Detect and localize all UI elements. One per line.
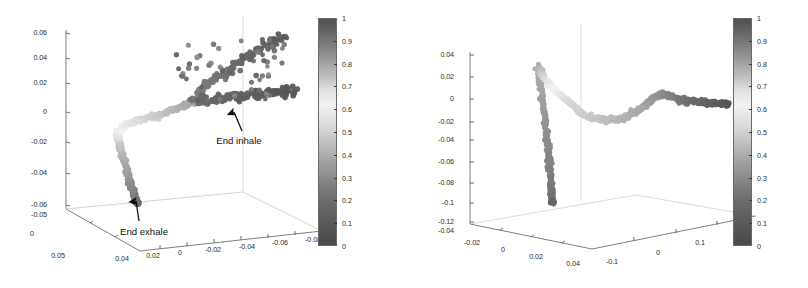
scatter-point bbox=[216, 92, 221, 97]
scatter-point bbox=[232, 93, 237, 98]
left-scatter-points bbox=[113, 31, 300, 207]
scatter-point bbox=[282, 95, 288, 101]
colorbar-tick bbox=[334, 86, 337, 87]
scatter-point bbox=[550, 200, 555, 205]
scatter-point bbox=[176, 66, 181, 71]
colorbar-tick-label: 0.8 bbox=[342, 59, 352, 68]
figure-root: 0.06 0.04 0.02 0 -0.02 -0.04 -0.06 -0.05… bbox=[0, 0, 808, 288]
left-depthtick-2: 0.05 bbox=[51, 252, 65, 260]
colorbar-tick bbox=[749, 86, 752, 87]
right-depthtick-2: 0 bbox=[501, 246, 505, 254]
left-ytick-2: 0.02 bbox=[33, 79, 47, 87]
colorbar-tick bbox=[334, 132, 337, 133]
end-inhale-arrow bbox=[234, 112, 242, 131]
left-depth-ticks bbox=[90, 221, 118, 237]
scatter-point bbox=[291, 91, 296, 96]
left-ytick-1: 0.04 bbox=[33, 54, 47, 62]
right-y-ticks bbox=[470, 55, 474, 222]
left-axis-lines bbox=[66, 16, 322, 251]
left-depthtick-1: 0 bbox=[30, 230, 34, 238]
colorbar-tick-label: 0.9 bbox=[342, 36, 352, 45]
end-inhale-label: End inhale bbox=[216, 135, 261, 146]
right-xtick-1: 0 bbox=[656, 249, 660, 257]
colorbar-tick-label: 1 bbox=[342, 14, 346, 23]
scatter-point bbox=[266, 72, 271, 77]
scatter-point bbox=[233, 61, 238, 66]
left-depthtick-0: -0.05 bbox=[31, 211, 47, 219]
left-ytick-0: 0.06 bbox=[33, 29, 47, 37]
scatter-point bbox=[259, 92, 264, 97]
scatter-point bbox=[194, 55, 200, 61]
right-depthtick-0: -0.04 bbox=[438, 227, 454, 235]
colorbar-tick bbox=[749, 41, 752, 42]
scatter-point bbox=[208, 61, 214, 67]
colorbar-tick bbox=[749, 64, 752, 65]
left-xtick-0: 0.04 bbox=[115, 255, 129, 263]
left-ytick-4: -0.02 bbox=[31, 138, 47, 146]
scatter-point bbox=[249, 80, 254, 85]
colorbar-tick-label: 0.2 bbox=[342, 196, 352, 205]
scatter-point bbox=[254, 49, 260, 55]
colorbar-tick bbox=[749, 109, 752, 110]
left-xtick-5: -0.06 bbox=[272, 239, 288, 247]
scatter-point bbox=[246, 52, 251, 57]
colorbar-tick-label: 1 bbox=[757, 14, 761, 23]
colorbar-tick bbox=[334, 178, 337, 179]
colorbar-tick-label: 0.7 bbox=[342, 82, 352, 91]
scatter-point bbox=[284, 35, 289, 40]
right-xtick-2: 0.1 bbox=[695, 239, 705, 247]
right-ytick-8: -0.12 bbox=[438, 218, 454, 226]
scatter-point bbox=[272, 55, 277, 60]
scatter-point bbox=[279, 61, 284, 66]
scatter-point bbox=[245, 90, 250, 95]
right-depthtick-4: 0.04 bbox=[566, 260, 580, 268]
colorbar-tick bbox=[334, 155, 337, 156]
right-axis-lines bbox=[470, 25, 756, 249]
left-ytick-6: -0.06 bbox=[31, 201, 47, 209]
scatter-point bbox=[199, 85, 204, 90]
scatter-point bbox=[264, 91, 269, 96]
colorbar-tick-label: 0.9 bbox=[757, 36, 767, 45]
scatter-point bbox=[260, 37, 265, 42]
scatter-point bbox=[280, 46, 285, 51]
scatter-point bbox=[195, 98, 200, 103]
left-axes-area: 0.06 0.04 0.02 0 -0.02 -0.04 -0.06 -0.05… bbox=[0, 0, 404, 288]
scatter-point bbox=[200, 93, 206, 99]
scatter-point bbox=[272, 48, 278, 54]
colorbar-tick-label: 0.4 bbox=[342, 150, 352, 159]
right-depth-ticks bbox=[500, 228, 565, 243]
colorbar-tick-label: 0.1 bbox=[757, 219, 767, 228]
colorbar-tick-label: 0.6 bbox=[342, 105, 352, 114]
right-depthtick-1: -0.02 bbox=[464, 239, 480, 247]
colorbar-tick bbox=[334, 200, 337, 201]
right-xtick-0: -0.1 bbox=[606, 258, 618, 266]
colorbar-tick-label: 0 bbox=[757, 242, 761, 251]
scatter-point bbox=[174, 52, 179, 57]
scatter-point bbox=[272, 38, 277, 43]
scatter-point bbox=[239, 39, 244, 44]
scatter-point bbox=[216, 46, 221, 51]
left-3d-scatter-panel: 0.06 0.04 0.02 0 -0.02 -0.04 -0.06 -0.05… bbox=[0, 0, 404, 288]
colorbar-tick-label: 0.3 bbox=[757, 173, 767, 182]
right-axes-area: 0.04 0.02 0 -0.02 -0.04 -0.06 -0.08 -0.1… bbox=[404, 0, 808, 288]
scatter-point bbox=[209, 97, 214, 102]
left-xtick-3: -0.02 bbox=[205, 246, 221, 254]
scatter-point bbox=[186, 65, 192, 71]
colorbar-tick-label: 0.8 bbox=[757, 59, 767, 68]
scatter-point bbox=[265, 64, 270, 69]
right-scatter-points bbox=[532, 62, 731, 207]
scatter-point bbox=[267, 38, 273, 44]
scatter-point bbox=[723, 103, 729, 109]
left-xtick-2: 0 bbox=[178, 249, 182, 257]
scatter-point bbox=[263, 97, 268, 102]
colorbar-tick-label: 0.6 bbox=[757, 105, 767, 114]
colorbar-tick bbox=[334, 64, 337, 65]
colorbar-tick bbox=[334, 109, 337, 110]
colorbar-tick-label: 0.5 bbox=[757, 128, 767, 137]
scatter-point bbox=[227, 70, 232, 75]
colorbar-tick bbox=[334, 223, 337, 224]
colorbar-tick-label: 0.5 bbox=[342, 128, 352, 137]
right-3d-scatter-panel: 0.04 0.02 0 -0.02 -0.04 -0.06 -0.08 -0.1… bbox=[404, 0, 808, 288]
scatter-point bbox=[221, 69, 226, 74]
colorbar-tick-label: 0.1 bbox=[342, 219, 352, 228]
